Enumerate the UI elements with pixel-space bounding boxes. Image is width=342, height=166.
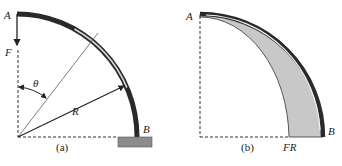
label-b-b: B — [328, 125, 335, 137]
panel-a: A F θ R B (a) — [3, 9, 152, 154]
label-fr: FR — [282, 141, 297, 153]
fixed-support — [118, 137, 152, 147]
curved-beam — [17, 14, 137, 137]
radius-arrow — [18, 86, 124, 137]
caption-a: (a) — [56, 141, 69, 154]
label-r: R — [71, 105, 79, 117]
angle-line — [18, 33, 98, 137]
label-a-b: A — [185, 10, 193, 22]
label-theta: θ — [33, 77, 39, 89]
figure: A F θ R B (a) A B FR (b) — [0, 0, 342, 166]
caption-b: (b) — [241, 141, 254, 154]
label-f: F — [4, 46, 12, 58]
label-a: A — [3, 9, 11, 21]
label-b: B — [143, 123, 150, 135]
panel-b: A B FR (b) — [185, 10, 335, 154]
